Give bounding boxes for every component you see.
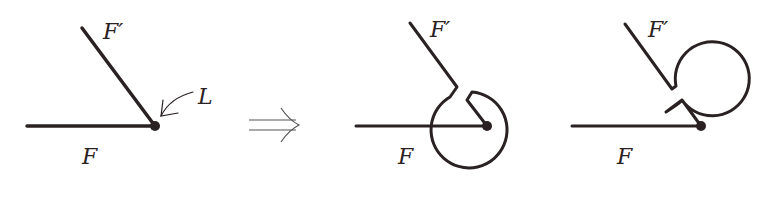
label-f-2: F xyxy=(397,144,414,169)
label-f-3: F xyxy=(616,144,633,169)
vertex-dot xyxy=(696,121,706,131)
label-f-1: F xyxy=(81,144,98,169)
pointer-arrowhead xyxy=(161,100,178,116)
vertex-dot xyxy=(482,121,492,131)
label-fprime-3: F′ xyxy=(647,17,668,42)
edge-fprime-loop xyxy=(410,23,507,168)
diagram-canvas: F′ L F F′ F F′ F xyxy=(0,0,758,201)
panel-2 xyxy=(356,23,507,168)
vertex-dot xyxy=(150,121,160,131)
edge-fprime-loop xyxy=(625,24,749,126)
pointer-arrow-icon xyxy=(161,92,193,116)
label-l: L xyxy=(197,84,213,109)
label-fprime-1: F′ xyxy=(102,19,123,44)
label-fprime-2: F′ xyxy=(429,17,450,42)
implies-arrow-icon xyxy=(249,108,299,142)
